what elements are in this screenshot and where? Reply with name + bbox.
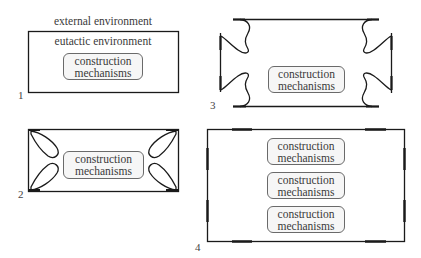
panel-number-4: 4 (195, 241, 201, 253)
mechanism-line-1: construction (278, 140, 335, 152)
mechanism-line-2: mechanisms (278, 220, 335, 232)
mechanism-line-2: mechanisms (278, 186, 335, 198)
construction-mechanisms-box: construction mechanisms (63, 53, 143, 80)
construction-mechanisms-box: construction mechanisms (267, 206, 345, 233)
mechanism-line-2: mechanisms (278, 152, 335, 164)
mechanism-line-1: construction (75, 153, 132, 165)
mechanism-line-2: mechanisms (278, 80, 335, 92)
mechanism-line-2: mechanisms (75, 67, 132, 79)
mechanism-line-1: construction (278, 208, 335, 220)
panel-3-boundary (221, 20, 392, 107)
mechanism-line-2: mechanisms (75, 165, 132, 177)
panel-number-2: 2 (18, 188, 24, 200)
construction-mechanisms-box: construction mechanisms (267, 172, 345, 199)
panel-number-1: 1 (18, 89, 24, 101)
construction-mechanisms-box: construction mechanisms (267, 138, 345, 165)
mechanism-line-1: construction (75, 55, 132, 67)
construction-mechanisms-box: construction mechanisms (63, 151, 144, 179)
mechanism-line-1: construction (278, 174, 335, 186)
eutactic-environment-label: eutactic environment (28, 35, 178, 47)
panel-number-3: 3 (210, 99, 216, 111)
mechanism-line-1: construction (278, 68, 335, 80)
external-environment-label: external environment (28, 15, 178, 27)
construction-mechanisms-box: construction mechanisms (268, 66, 345, 93)
